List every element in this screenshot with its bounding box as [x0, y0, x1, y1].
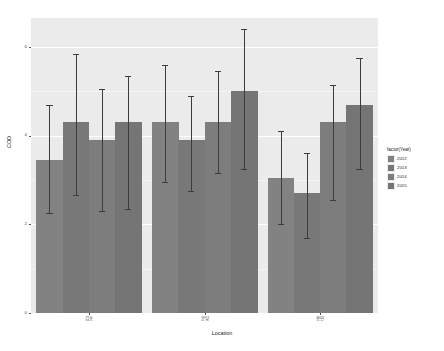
x-tick-mark	[320, 313, 321, 315]
legend-swatch	[388, 183, 394, 189]
x-tick-mark	[89, 313, 90, 315]
error-bar-cap-lower	[73, 195, 79, 196]
error-bar	[76, 54, 77, 196]
x-axis-title: Location	[0, 330, 444, 336]
error-bar-cap-upper	[99, 89, 105, 90]
gridline-minor	[31, 91, 378, 92]
legend-key	[387, 164, 395, 172]
error-bar-cap-upper	[125, 76, 131, 77]
error-bar-cap-lower	[125, 209, 131, 210]
error-bar-cap-lower	[278, 224, 284, 225]
legend-key	[387, 173, 395, 181]
x-tick-label: 분당	[185, 317, 225, 322]
x-tick-label: 용인	[300, 317, 340, 322]
error-bar-cap-upper	[304, 153, 310, 154]
y-axis-title: COD	[6, 136, 12, 148]
error-bar	[102, 89, 103, 211]
y-tick-mark	[29, 313, 31, 314]
error-bar-cap-upper	[278, 131, 284, 132]
legend-swatch	[388, 156, 394, 162]
error-bar-cap-upper	[162, 65, 168, 66]
error-bar-cap-upper	[241, 29, 247, 30]
legend-items: 2012201320142015	[387, 154, 441, 190]
legend-item: 2015	[387, 181, 441, 190]
legend-key	[387, 182, 395, 190]
y-tick-label: 0	[25, 311, 27, 315]
legend-key	[387, 155, 395, 163]
x-tick-mark	[205, 313, 206, 315]
legend-label: 2013	[397, 165, 407, 170]
error-bar-cap-upper	[46, 105, 52, 106]
error-bar	[244, 29, 245, 169]
error-bar-cap-lower	[356, 169, 362, 170]
error-bar-cap-upper	[356, 58, 362, 59]
legend-swatch	[388, 174, 394, 180]
error-bar-cap-lower	[241, 169, 247, 170]
error-bar	[128, 76, 129, 209]
legend-swatch	[388, 165, 394, 171]
error-bar-cap-lower	[188, 191, 194, 192]
error-bar-cap-upper	[330, 85, 336, 86]
error-bar-cap-lower	[215, 173, 221, 174]
y-tick-mark	[29, 224, 31, 225]
error-bar-cap-lower	[330, 200, 336, 201]
legend-item: 2012	[387, 154, 441, 163]
legend-label: 2012	[397, 156, 407, 161]
error-bar	[281, 131, 282, 224]
error-bar	[49, 105, 50, 214]
error-bar	[165, 65, 166, 183]
error-bar	[333, 85, 334, 200]
chart-root: 0246 김포분당용인 COD Location factor(Year) 20…	[0, 0, 444, 351]
error-bar	[307, 153, 308, 237]
legend-item: 2014	[387, 172, 441, 181]
gridline-major	[31, 47, 378, 48]
y-tick-label: 4	[25, 133, 27, 137]
legend-item: 2013	[387, 163, 441, 172]
plot-panel	[31, 18, 378, 313]
legend-title: factor(Year)	[387, 147, 441, 152]
error-bar-cap-lower	[162, 182, 168, 183]
y-tick-label: 6	[25, 45, 27, 49]
y-tick-label: 2	[25, 222, 27, 226]
error-bar-cap-upper	[215, 71, 221, 72]
error-bar	[360, 58, 361, 169]
error-bar-cap-lower	[99, 211, 105, 212]
error-bar	[218, 71, 219, 173]
legend-label: 2015	[397, 183, 407, 188]
error-bar-cap-upper	[73, 54, 79, 55]
y-tick-mark	[29, 136, 31, 137]
error-bar-cap-lower	[46, 213, 52, 214]
error-bar-cap-lower	[304, 238, 310, 239]
error-bar-cap-upper	[188, 96, 194, 97]
legend-label: 2014	[397, 174, 407, 179]
y-tick-mark	[29, 47, 31, 48]
x-tick-label: 김포	[69, 317, 109, 322]
legend: factor(Year) 2012201320142015	[387, 147, 441, 190]
error-bar	[191, 96, 192, 191]
